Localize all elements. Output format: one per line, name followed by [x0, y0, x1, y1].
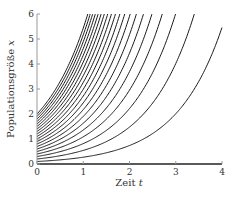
exponential-growth-chart: 0123456 01234 Zeit t Populationsgröße x [0, 0, 236, 201]
y-ticks: 0123456 [28, 9, 40, 169]
y-tick-label: 4 [28, 59, 34, 69]
population-curve [37, 14, 125, 142]
y-tick-label: 6 [28, 9, 34, 19]
x-tick-label: 4 [219, 167, 225, 177]
x-tick-label: 3 [173, 167, 179, 177]
y-tick-label: 2 [28, 109, 34, 119]
x-tick-label: 2 [127, 167, 133, 177]
y-tick-label: 1 [28, 134, 34, 144]
population-curve [37, 14, 194, 159]
y-tick-label: 5 [28, 34, 34, 44]
population-curve [37, 14, 115, 137]
x-axis-label: Zeit t [115, 177, 143, 188]
population-curve [37, 14, 162, 154]
population-curve [37, 14, 120, 139]
population-curve [37, 14, 98, 124]
x-tick-label: 1 [80, 167, 86, 177]
y-axis-label: Populationsgröße x [5, 40, 16, 138]
y-tick-label: 3 [28, 84, 34, 94]
x-tick-label: 0 [34, 167, 40, 177]
population-curves [37, 14, 222, 164]
